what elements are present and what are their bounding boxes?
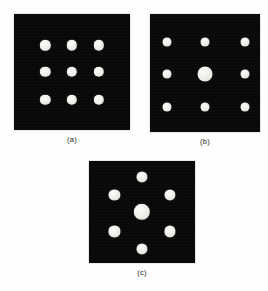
panel-b-dot-row2-col3 — [240, 70, 249, 79]
panel-b-dot-row3-col3 — [240, 103, 249, 112]
panel-a — [14, 14, 130, 130]
panel-a-caption: (a) — [14, 135, 130, 145]
panel-b-dot-row1-col3 — [240, 38, 249, 47]
panel-b-caption: (b) — [150, 137, 260, 147]
panel-b-dot-row1-col2 — [200, 38, 209, 47]
panel-b-dot-row3-col2 — [200, 103, 209, 112]
panel-b — [150, 14, 260, 132]
panel-b-dot-row3-col1 — [162, 103, 171, 112]
panel-b-dot-centre — [198, 67, 213, 82]
figure-root: (a)(b)(c) — [0, 0, 268, 291]
panel-c-caption: (c) — [89, 268, 195, 278]
panel-c — [89, 161, 195, 263]
panel-b-dot-row2-col1 — [162, 70, 171, 79]
panel-b-dot-row1-col1 — [162, 38, 171, 47]
